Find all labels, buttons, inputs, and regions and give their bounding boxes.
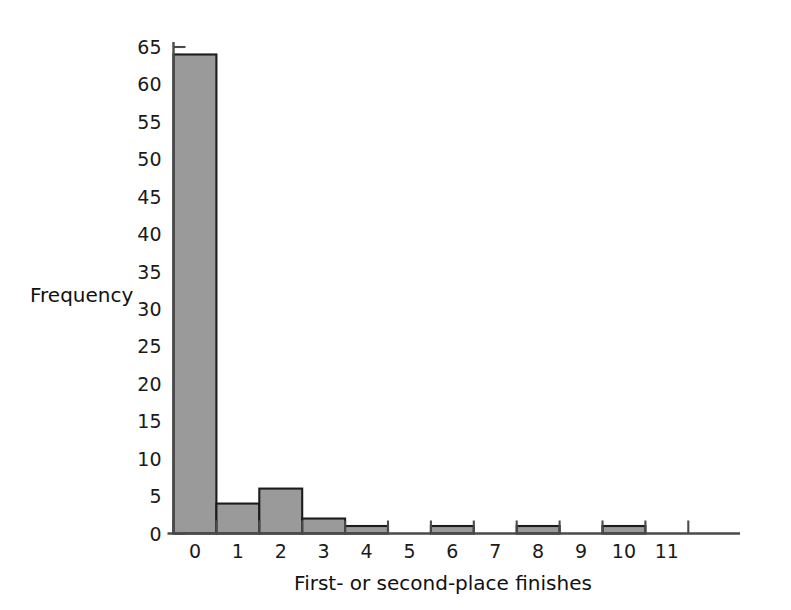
- y-tick-label: 40: [137, 223, 161, 245]
- histogram-chart: 05101520253035404550556065 0123456789101…: [0, 0, 791, 610]
- y-tick-label: 45: [137, 186, 161, 208]
- y-tick-label: 25: [137, 335, 161, 357]
- x-tick-label: 5: [403, 540, 415, 562]
- y-axis-tick-labels: 05101520253035404550556065: [137, 36, 161, 545]
- y-tick-label: 30: [137, 298, 161, 320]
- x-tick-label: 7: [489, 540, 501, 562]
- x-tick-label: 3: [318, 540, 330, 562]
- y-tick-label: 55: [137, 111, 161, 133]
- x-tick-label: 8: [532, 540, 544, 562]
- histogram-bar: [302, 519, 345, 534]
- x-tick-label: 11: [655, 540, 679, 562]
- bar-series: [174, 54, 646, 533]
- histogram-bar: [174, 54, 217, 533]
- x-tick-label: 0: [189, 540, 201, 562]
- y-tick-label: 60: [137, 73, 161, 95]
- y-tick-label: 20: [137, 373, 161, 395]
- x-tick-label: 1: [232, 540, 244, 562]
- x-axis-title: First- or second-place finishes: [294, 571, 592, 595]
- y-tick-label: 5: [149, 485, 161, 507]
- histogram-bar: [216, 504, 259, 534]
- y-tick-label: 15: [137, 410, 161, 432]
- x-tick-label: 6: [446, 540, 458, 562]
- y-tick-label: 50: [137, 148, 161, 170]
- y-tick-label: 0: [149, 523, 161, 545]
- y-axis-title: Frequency: [30, 283, 133, 307]
- y-tick-label: 10: [137, 448, 161, 470]
- x-tick-label: 9: [575, 540, 587, 562]
- y-tick-label: 65: [137, 36, 161, 58]
- x-tick-label: 10: [612, 540, 636, 562]
- y-tick-label: 35: [137, 261, 161, 283]
- x-tick-label: 2: [275, 540, 287, 562]
- x-tick-label: 4: [361, 540, 373, 562]
- x-axis-tick-labels: 01234567891011: [189, 540, 679, 562]
- histogram-bar: [259, 489, 302, 534]
- chart-canvas: 05101520253035404550556065 0123456789101…: [0, 0, 791, 610]
